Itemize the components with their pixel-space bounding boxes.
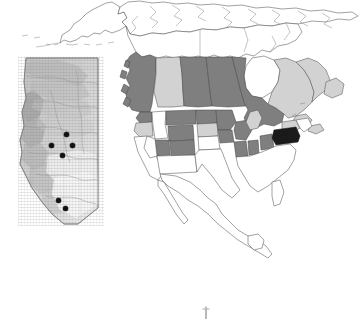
region-colorado bbox=[170, 140, 195, 156]
region-alberta bbox=[154, 57, 184, 107]
north-arrow-mark bbox=[201, 305, 211, 319]
region-washington bbox=[136, 112, 152, 123]
region-south-dakota bbox=[197, 123, 218, 137]
region-arizona-newmexico bbox=[157, 155, 197, 174]
region-nebraska bbox=[198, 136, 220, 150]
region-wyoming bbox=[168, 125, 194, 141]
region-pennsylvania bbox=[272, 127, 300, 145]
region-north-dakota bbox=[196, 110, 217, 124]
region-idaho bbox=[152, 111, 168, 139]
region-iowa bbox=[218, 130, 234, 143]
region-british-columbia bbox=[126, 52, 156, 112]
alberta-inset-map bbox=[18, 56, 104, 226]
region-indiana bbox=[248, 140, 259, 155]
region-utah bbox=[155, 140, 170, 156]
region-florida bbox=[272, 180, 284, 206]
region-oregon bbox=[134, 122, 153, 137]
region-montana bbox=[166, 110, 196, 125]
region-kansas-oklahoma-texas bbox=[195, 149, 240, 198]
region-minnesota bbox=[216, 110, 236, 130]
region-illinois bbox=[234, 141, 248, 157]
region-alaska bbox=[22, 2, 127, 47]
distribution-map-figure: Distribution map of North America with A… bbox=[0, 0, 360, 324]
